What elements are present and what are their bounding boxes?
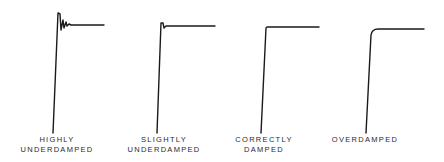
label-highly-underdamped: HIGHLY UNDERDAMPED xyxy=(20,135,93,155)
curve-correctly-damped xyxy=(261,27,319,133)
label-line-2: DAMPED xyxy=(235,145,292,155)
label-correctly-damped: CORRECTLY DAMPED xyxy=(235,135,292,155)
curve-slightly-underdamped xyxy=(157,23,215,133)
damping-response-diagram: HIGHLY UNDERDAMPED SLIGHTLY UNDERDAMPED … xyxy=(0,0,444,162)
label-line-1: OVERDAMPED xyxy=(332,135,398,145)
label-line-1: SLIGHTLY xyxy=(127,135,200,145)
curve-highly-underdamped xyxy=(53,13,104,133)
label-line-2: UNDERDAMPED xyxy=(20,145,93,155)
label-line-1: HIGHLY xyxy=(20,135,93,145)
curve-overdamped xyxy=(366,29,424,133)
label-line-1: CORRECTLY xyxy=(235,135,292,145)
label-slightly-underdamped: SLIGHTLY UNDERDAMPED xyxy=(127,135,200,155)
label-line-2: UNDERDAMPED xyxy=(127,145,200,155)
label-overdamped: OVERDAMPED xyxy=(332,135,398,145)
